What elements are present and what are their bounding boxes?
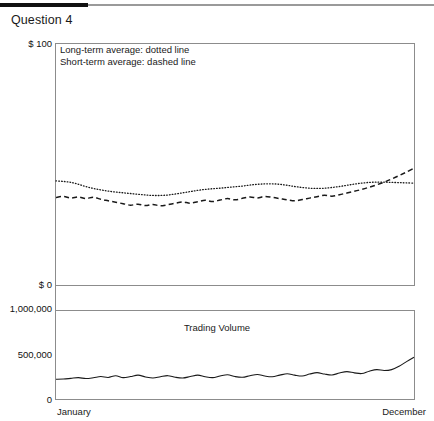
price-chart-legend: Long-term average: dotted line Short-ter… — [60, 44, 196, 67]
volume-chart-title: Trading Volume — [0, 322, 434, 333]
price-series-short-term — [56, 168, 414, 206]
price-axis-label-bottom: $ 0 — [39, 279, 52, 290]
x-axis-label-start: January — [57, 406, 91, 417]
price-chart-frame — [56, 44, 415, 286]
x-axis-label-end: December — [382, 406, 426, 417]
volume-axis-label-mid: 500,000 — [18, 349, 52, 360]
volume-axis-label-bottom: 0 — [47, 394, 52, 405]
legend-line-short-term: Short-term average: dashed line — [60, 56, 196, 68]
price-series-long-term — [56, 181, 414, 196]
volume-axis-label-top: 1,000,000 — [10, 303, 52, 314]
price-axis-label-top: $ 100 — [28, 38, 52, 49]
legend-line-long-term: Long-term average: dotted line — [60, 44, 196, 56]
volume-series — [56, 357, 414, 379]
